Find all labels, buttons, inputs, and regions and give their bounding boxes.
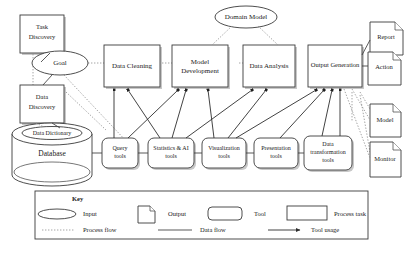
query-tools-label-2: tools [114,153,126,159]
report-label: Report [377,33,395,40]
legend-input-label: Input [83,210,97,217]
legend-tool-label: Tool [254,210,266,217]
node-report[interactable]: Report [370,22,403,55]
node-action[interactable]: Action [368,52,401,85]
node-query-tools[interactable]: Query tools [102,138,140,170]
legend-process-flow-label: Process flow [83,226,117,233]
node-monitor[interactable]: Monitor [370,142,401,177]
data-dictionary-label: Data Dictionary [33,130,71,136]
node-output-generation[interactable]: Output Generation [308,45,364,89]
legend-tool-usage-label: Tool usage [311,226,339,233]
data-cleaning-label: Data Cleaning [112,62,153,70]
database-label: Database [38,149,66,158]
legend-data-flow-label: Data flow [200,226,226,233]
visualization-tools-label-1: Visualization [208,145,240,151]
task-discovery-label-2: Discovery [29,33,56,40]
node-data-discovery[interactable]: Data Discovery [20,85,66,125]
model-development-label-2: Development [181,67,219,75]
node-task-discovery[interactable]: Task Discovery [20,15,66,55]
node-database[interactable]: Database Data Dictionary [12,123,92,186]
node-visualization-tools[interactable]: Visualization tools [202,138,248,170]
task-discovery-label-1: Task [36,23,49,30]
statistics-ai-tools-label-1: Statistics & AI [153,145,188,151]
data-transformation-tools-label-3: tools [322,157,334,163]
data-discovery-label-2: Discovery [29,103,56,110]
diagram-canvas: Task Discovery Data Discovery Goal Datab… [0,0,411,257]
node-model-output[interactable]: Model [370,104,401,137]
action-label: Action [375,63,393,70]
visualization-tools-label-2: tools [218,153,230,159]
data-transformation-tools-label-1: Data [322,141,334,147]
model-development-label-1: Model [191,58,209,66]
legend-process-task-label: Process task [334,210,367,217]
presentation-tools-label-2: tools [270,153,282,159]
node-data-transformation-tools[interactable]: Data transformation tools [304,136,354,172]
output-generation-label: Output Generation [311,61,360,68]
legend-output-label: Output [168,210,186,217]
legend: Key Input Output Tool Process task Proce… [35,191,368,239]
node-statistics-ai-tools[interactable]: Statistics & AI tools [148,138,196,170]
model-output-label: Model [377,116,394,123]
node-data-analysis[interactable]: Data Analysis [243,45,297,89]
node-model-development[interactable]: Model Development [172,45,230,89]
legend-title: Key [72,195,84,202]
node-goal[interactable]: Goal [32,51,88,75]
node-presentation-tools[interactable]: Presentation tools [254,138,300,170]
data-transformation-tools-label-2: transformation [310,149,345,155]
query-tools-label-1: Query [113,145,128,151]
goal-label: Goal [53,59,67,67]
statistics-ai-tools-label-2: tools [165,153,177,159]
presentation-tools-label-1: Presentation [261,145,291,151]
node-domain-model[interactable]: Domain Model [215,6,277,28]
node-data-cleaning[interactable]: Data Cleaning [104,45,162,89]
monitor-label: Monitor [374,155,396,162]
tool-usage-arrows [114,90,340,138]
domain-model-flows [212,26,278,45]
data-discovery-label-1: Data [36,93,48,100]
data-analysis-label: Data Analysis [249,62,288,70]
domain-model-label: Domain Model [225,13,268,21]
